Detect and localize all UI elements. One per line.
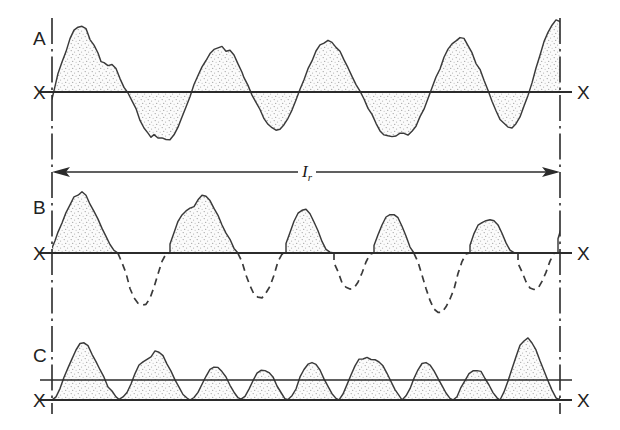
waveform-figure — [0, 0, 620, 430]
baseline-c-label-left: X — [33, 391, 46, 410]
trace-c-label: C — [33, 346, 47, 365]
baseline-a-label-right: X — [577, 83, 590, 102]
baseline-b-label-right: X — [577, 244, 590, 263]
baseline-a-label-left: X — [33, 83, 46, 102]
baseline-c-label-right: X — [577, 391, 590, 410]
interval-length-label: Ir — [298, 163, 316, 186]
baseline-b-label-left: X — [33, 244, 46, 263]
trace-b-label: B — [33, 198, 46, 217]
interval-subscript: r — [308, 171, 312, 183]
trace-a-label: A — [33, 29, 46, 48]
